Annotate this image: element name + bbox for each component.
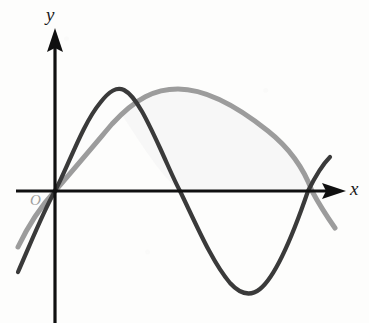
figure-container: y x O xyxy=(0,0,369,323)
x-axis-label: x xyxy=(350,178,358,200)
area-between-curves-shading xyxy=(120,89,312,191)
y-axis-label: y xyxy=(46,4,54,26)
curve-plot-svg xyxy=(0,0,369,323)
origin-label: O xyxy=(30,192,41,209)
